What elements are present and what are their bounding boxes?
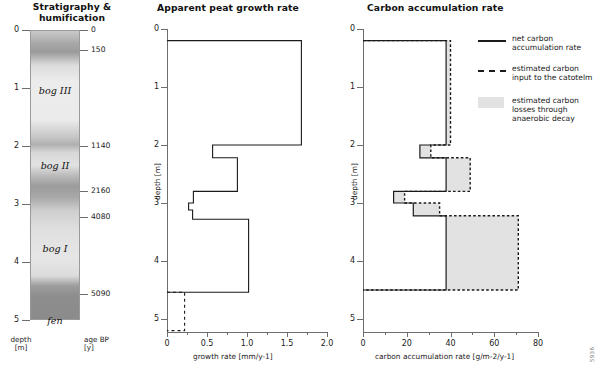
legend-label-input-line: estimated carbon input to the catotelm [512,64,598,82]
depth-tick-label: 0 [9,25,19,34]
stratigraphy-unit-label: bog III [30,85,80,96]
growth-rate-plot [145,0,345,367]
depth-tick-mark [22,88,30,89]
legend-symbol-loss-area [478,97,504,108]
carbon-rate-plot [355,0,598,367]
depth-tick-label: 2 [9,141,19,150]
legend-label-net-line: net carbon accumulation rate [512,34,598,52]
stratigraphy-unit-label: bog I [30,243,80,254]
panel-carbon-rate: Carbon accumulation rate 012345 02040608… [355,0,598,367]
age-tick-label: 4080 [91,212,110,221]
age-tick-label: 150 [91,45,106,54]
depth-tick-mark [22,146,30,147]
depth-tick-label: 1 [343,82,355,91]
carbon-loss-band [446,158,470,192]
carbon-loss-band [446,216,518,290]
age-tick-mark [80,50,88,51]
age-tick-mark [80,217,88,218]
depth-tick-mark [22,262,30,263]
depth-tick-label: 4 [9,257,19,266]
panel-stratigraphy: Stratigraphy & humification 012345 01501… [0,0,140,367]
depth-tick-mark [22,320,30,321]
depth-tick-label: 1 [9,83,19,92]
age-tick-label: 0 [91,25,96,34]
legend-symbol-net-line [478,40,506,42]
stratigraphy-age-axis-label: age BP [y] [84,336,124,353]
depth-tick-label: 0 [343,24,355,33]
stratigraphy-unit-label: bog II [30,160,80,171]
growth-y-axis-label: depth [m] [153,163,162,200]
depth-tick-label: 5 [343,314,355,323]
carbon-net-series [363,41,446,290]
carbon-loss-band [413,203,439,216]
legend-symbol-input-line [478,70,506,72]
panel-growth-rate: Apparent peat growth rate 012345 00.51.0… [145,0,345,367]
stratigraphy-title: Stratigraphy & humification [17,2,127,23]
depth-tick-mark [22,204,30,205]
humification-column [30,30,80,320]
carbon-x-axis-label: carbon accumulation rate [g/m-2/y-1] [375,352,514,361]
carbon-loss-band [394,191,405,203]
carbon-y-axis-label: depth [m] [350,163,359,200]
stratigraphy-depth-axis-label: depth [m] [5,336,37,353]
carbon-loss-band [420,145,431,158]
age-tick-mark [80,30,88,31]
figure-root: Stratigraphy & humification 012345 01501… [0,0,598,367]
growth-x-axis-label: growth rate [mm/y-1] [193,352,273,361]
depth-tick-label: 2 [343,140,355,149]
figure-corner-id: 5936 [589,347,595,362]
legend-label-loss-area: estimated carbon losses through anaerobi… [512,96,598,123]
age-tick-mark [80,294,88,295]
depth-tick-label: 4 [343,256,355,265]
depth-tick-mark [22,30,30,31]
depth-tick-label: 3 [9,199,19,208]
growth-rate-solid-series [167,41,301,293]
growth-rate-dashed-series [167,292,185,330]
age-tick-mark [80,146,88,147]
age-tick-label: 1140 [91,141,110,150]
age-tick-mark [80,191,88,192]
age-tick-label: 5090 [91,289,110,298]
depth-tick-label: 5 [9,315,19,324]
age-tick-label: 2160 [91,186,110,195]
stratigraphy-unit-label: fen [30,315,80,326]
